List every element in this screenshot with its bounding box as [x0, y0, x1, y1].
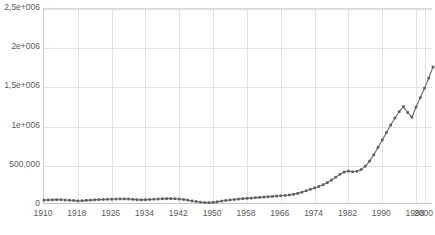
data-point-marker [368, 160, 371, 163]
data-point-marker [330, 179, 333, 182]
data-point-marker [123, 198, 126, 201]
data-point-marker [106, 198, 109, 201]
data-point-marker [423, 87, 426, 90]
y-axis-tick-label: 0 [0, 199, 40, 208]
data-point-marker [356, 170, 359, 173]
data-point-marker [398, 110, 401, 113]
series-line-chart [44, 9, 433, 205]
y-axis-tick-label: 500,000 [0, 160, 40, 169]
data-point-marker [250, 197, 253, 200]
data-point-marker [191, 200, 194, 203]
data-point-marker [229, 199, 232, 202]
data-point-marker [115, 198, 118, 201]
data-point-marker [85, 199, 88, 202]
x-axis-tick-label: 2000 [404, 208, 435, 218]
data-point-marker [351, 170, 354, 173]
data-point-marker [432, 66, 435, 69]
data-point-marker [284, 194, 287, 197]
data-point-marker [55, 198, 58, 201]
series-1-line [44, 67, 433, 203]
data-point-marker [360, 168, 363, 171]
data-point-marker [127, 198, 130, 201]
data-point-marker [406, 111, 409, 114]
data-point-marker [322, 183, 325, 186]
data-point-marker [208, 201, 211, 204]
plot-area [43, 8, 432, 204]
data-point-marker [110, 198, 113, 201]
y-axis-tick-label: 2e+006 [0, 42, 40, 51]
data-point-marker [258, 196, 261, 199]
y-axis-tick-label: 2,5e+006 [0, 3, 40, 12]
data-point-marker [98, 198, 101, 201]
data-point-marker [411, 116, 414, 119]
data-point-marker [318, 185, 321, 188]
data-point-marker [144, 198, 147, 201]
data-point-marker [246, 197, 249, 200]
data-point-marker [51, 199, 54, 202]
data-point-marker [292, 193, 295, 196]
data-point-marker [313, 187, 316, 190]
data-point-marker [296, 192, 299, 195]
y-axis-tick-label: 1e+006 [0, 121, 40, 130]
y-axis-tick-label: 1,5e+006 [0, 81, 40, 90]
data-point-marker [47, 199, 50, 202]
data-point-marker [377, 146, 380, 149]
data-point-marker [186, 199, 189, 202]
data-point-marker [148, 198, 151, 201]
series-1-markers [43, 66, 435, 204]
data-point-marker [389, 124, 392, 127]
data-point-marker [334, 176, 337, 179]
data-point-marker [136, 198, 139, 201]
data-point-marker [220, 200, 223, 203]
data-point-marker [275, 195, 278, 198]
data-point-marker [64, 199, 67, 202]
data-point-marker [301, 191, 304, 194]
data-point-marker [279, 194, 282, 197]
data-point-marker [102, 198, 105, 201]
data-point-marker [271, 195, 274, 198]
data-point-marker [89, 199, 92, 202]
data-point-marker [174, 197, 177, 200]
data-point-marker [119, 198, 122, 201]
data-point-marker [93, 199, 96, 202]
data-point-marker [339, 173, 342, 176]
data-point-marker [263, 196, 266, 199]
data-point-marker [241, 197, 244, 200]
data-point-marker [225, 199, 228, 202]
data-point-marker [427, 77, 430, 80]
data-point-marker [199, 201, 202, 204]
data-point-marker [326, 181, 329, 184]
data-point-marker [309, 188, 312, 191]
data-point-marker [233, 198, 236, 201]
data-point-marker [68, 199, 71, 202]
data-point-marker [195, 200, 198, 203]
data-point-marker [72, 199, 75, 202]
data-point-marker [178, 198, 181, 201]
data-point-marker [254, 196, 257, 199]
data-point-marker [43, 199, 46, 202]
data-point-marker [267, 195, 270, 198]
data-point-marker [216, 200, 219, 203]
data-point-marker [415, 106, 418, 109]
data-point-marker [385, 131, 388, 134]
data-point-marker [343, 171, 346, 174]
data-point-marker [165, 197, 168, 200]
data-point-marker [237, 198, 240, 201]
data-point-marker [131, 198, 134, 201]
data-point-marker [394, 117, 397, 120]
chart-container: 0500,0001e+0061,5e+0062e+0062,5e+006 191… [0, 0, 435, 235]
data-point-marker [419, 96, 422, 99]
data-point-marker [60, 198, 63, 201]
data-point-marker [157, 198, 160, 201]
data-point-marker [305, 190, 308, 193]
data-point-marker [153, 198, 156, 201]
data-point-marker [212, 201, 215, 204]
data-point-marker [203, 201, 206, 204]
data-point-marker [364, 165, 367, 168]
data-point-marker [170, 197, 173, 200]
data-point-marker [81, 199, 84, 202]
data-point-marker [288, 194, 291, 197]
data-point-marker [182, 198, 185, 201]
data-point-marker [140, 199, 143, 202]
data-point-marker [373, 154, 376, 157]
